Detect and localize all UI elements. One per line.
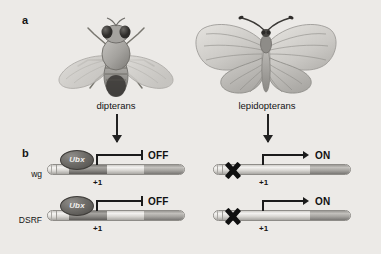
connector-arrow-dipterans xyxy=(111,114,123,142)
activation-symbol-wg-lepidopterans xyxy=(262,154,314,165)
x-mark-wg-lepidopterans xyxy=(222,159,244,181)
gene-coding-region xyxy=(144,211,185,220)
gene-label-wg: wg xyxy=(8,169,42,179)
ubx-protein-dsrf-dipterans: Ubx xyxy=(60,196,94,216)
gene-bar-left-cap xyxy=(48,211,57,220)
gene-coding-region xyxy=(310,165,351,174)
repression-symbol-dsrf-dipterans xyxy=(96,200,146,211)
ubx-protein-label: Ubx xyxy=(69,202,85,210)
organism-label-lepidopterans: lepidopterans xyxy=(208,100,326,111)
gene-bar-left-cap xyxy=(48,165,57,174)
butterfly-icon xyxy=(192,14,340,100)
ubx-protein-label: Ubx xyxy=(69,156,85,164)
gene-label-dsrf: DSRF xyxy=(2,215,42,225)
repression-symbol-wg-dipterans xyxy=(96,154,146,165)
state-label-wg-dipterans: OFF xyxy=(148,150,169,161)
panel-label-b: b xyxy=(22,147,29,159)
tss-label-dsrf-dipterans: +1 xyxy=(93,224,102,233)
connector-arrow-lepidopterans xyxy=(262,114,274,142)
fly-icon xyxy=(52,16,180,100)
state-label-wg-lepidopterans: ON xyxy=(315,150,330,161)
activation-symbol-dsrf-lepidopterans xyxy=(262,200,314,211)
gene-coding-region xyxy=(144,165,185,174)
organism-label-dipterans: dipterans xyxy=(64,100,168,111)
panel-label-a: a xyxy=(22,14,28,26)
ubx-protein-wg-dipterans: Ubx xyxy=(60,150,94,170)
figure-canvas: a xyxy=(0,0,381,254)
tss-label-wg-dipterans: +1 xyxy=(93,178,102,187)
state-label-dsrf-lepidopterans: ON xyxy=(315,196,330,207)
gene-coding-region xyxy=(310,211,351,220)
x-mark-dsrf-lepidopterans xyxy=(222,205,244,227)
tss-label-wg-lepidopterans: +1 xyxy=(259,178,268,187)
state-label-dsrf-dipterans: OFF xyxy=(148,196,169,207)
tss-label-dsrf-lepidopterans: +1 xyxy=(259,224,268,233)
